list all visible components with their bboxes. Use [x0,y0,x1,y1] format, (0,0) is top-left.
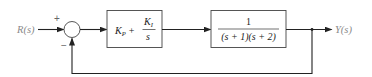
block-diagram: R(s) + − KP+ KI s 1 (s + 1)(s + 2) [0,0,372,77]
summing-junction [64,22,80,38]
output-label: Y(s) [335,24,352,36]
svg-text:1: 1 [246,16,251,27]
input-label: R(s) [16,24,35,36]
minus-sign: − [61,40,67,51]
svg-text:s: s [146,31,150,42]
plus-sign: + [54,13,60,24]
svg-text:(s + 1)(s + 2): (s + 1)(s + 2) [221,31,276,43]
